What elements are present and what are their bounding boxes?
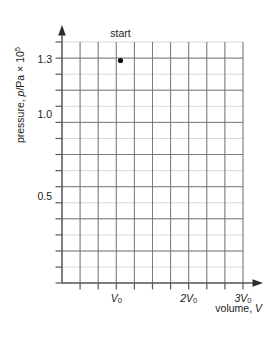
start-point-label: start <box>110 27 131 39</box>
x-axis-title-symbol: V <box>255 302 263 314</box>
x-axis-arrowhead <box>253 279 264 287</box>
chart-canvas: 1.3 1.0 0.5 V0 2V0 3V0 start volume, V p… <box>0 0 279 344</box>
y-tick-label-0-5: 0.5 <box>37 190 52 202</box>
y-axis-title-text: pressure, <box>14 96 26 143</box>
x-tick-label-v0-sub: 0 <box>118 295 122 304</box>
y-tick-label-1-3: 1.3 <box>37 53 52 65</box>
x-tick-label-2v0-base: 2V <box>179 292 194 304</box>
y-axis-title: pressure, p/Pa × 105 <box>13 47 26 143</box>
y-axis-title-exponent: 5 <box>13 47 22 51</box>
data-point-start <box>118 58 123 63</box>
x-axis-title-text: volume, <box>215 302 255 314</box>
x-tick-label-v0: V0 <box>111 292 122 304</box>
y-axis-arrowhead <box>58 25 66 36</box>
x-tick-label-2v0: 2V0 <box>179 292 197 304</box>
x-axis <box>62 279 263 287</box>
pressure-volume-chart: 1.3 1.0 0.5 V0 2V0 3V0 start volume, V p… <box>0 0 279 344</box>
x-axis-ticks <box>80 283 243 290</box>
y-tick-label-1-0: 1.0 <box>37 108 52 120</box>
grid-major-lines <box>62 42 243 283</box>
y-axis-title-unit: /Pa × 10 <box>14 51 26 91</box>
x-axis-title: volume, V <box>215 302 263 314</box>
y-axis-ticks <box>56 42 63 283</box>
x-tick-label-2v0-sub: 0 <box>193 295 197 304</box>
